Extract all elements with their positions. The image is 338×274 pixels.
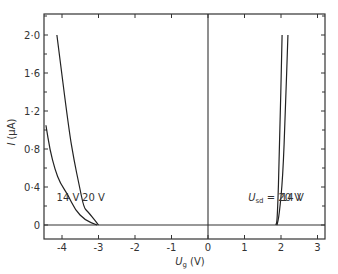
axis-ticks <box>44 14 325 239</box>
curve-annotations: 14 V20 VUsd = 20 V14 V <box>57 192 304 205</box>
plot-border <box>44 14 325 239</box>
x-tick-label: -4 <box>57 242 67 253</box>
iv-chart: -4-3-2-1012300·40·81·21·62·0 14 V20 VUsd… <box>0 0 338 274</box>
y-tick-label: 1·2 <box>24 106 40 117</box>
x-tick-label: 3 <box>314 242 320 253</box>
tick-labels: -4-3-2-1012300·40·81·21·62·0 <box>24 30 321 254</box>
x-tick-label: -1 <box>167 242 177 253</box>
plot-frame <box>44 14 325 239</box>
x-tick-label: 2 <box>278 242 284 253</box>
x-tick-label: -2 <box>130 242 140 253</box>
y-tick-label: 1·6 <box>24 68 40 79</box>
x-tick-label: 1 <box>241 242 247 253</box>
curve-label: 20 V <box>82 192 105 203</box>
x-axis-title: Ug(V) <box>175 256 205 269</box>
curve-label: 14 V <box>281 192 304 203</box>
series-curve <box>46 125 97 225</box>
y-tick-label: 2·0 <box>24 30 40 41</box>
y-tick-label: 0·4 <box>24 182 40 193</box>
y-tick-label: 0 <box>34 220 40 231</box>
x-tick-label: -3 <box>94 242 104 253</box>
curve-label: 14 V <box>57 192 80 203</box>
y-tick-label: 0·8 <box>24 144 40 155</box>
x-tick-label: 0 <box>205 242 211 253</box>
y-axis-title: I(μA) <box>6 118 17 145</box>
